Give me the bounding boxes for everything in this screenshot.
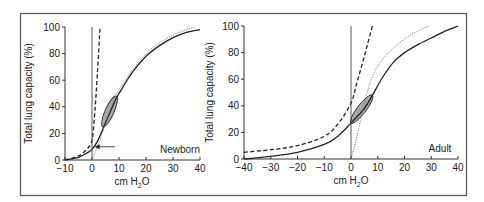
x-tick-label: −20 xyxy=(289,162,306,173)
x-tick-label: −30 xyxy=(262,162,279,173)
lung-curve xyxy=(92,27,195,160)
y-tick-label: 20 xyxy=(49,128,61,139)
adult-panel: 020406080100−40−30−20−10010203040Total l… xyxy=(204,21,464,189)
x-tick-label: 40 xyxy=(452,162,464,173)
y-tick-label: 60 xyxy=(228,74,240,85)
x-tick-label: −40 xyxy=(236,162,253,173)
x-axis-label: cm H2O xyxy=(114,176,149,189)
x-tick-label: 40 xyxy=(194,163,206,174)
x-tick-label: −10 xyxy=(57,163,74,174)
x-tick-label: 10 xyxy=(372,162,384,173)
x-tick-label: 30 xyxy=(426,162,438,173)
x-tick-label: 20 xyxy=(399,162,411,173)
lung-curve xyxy=(351,26,429,159)
x-tick-label: 10 xyxy=(113,163,125,174)
y-tick-label: 100 xyxy=(222,21,239,32)
newborn-panel: 020406080100−10010203040Total lung capac… xyxy=(23,22,206,190)
y-tick-label: 80 xyxy=(49,48,61,59)
y-tick-label: 60 xyxy=(49,75,61,86)
x-tick-label: 20 xyxy=(140,163,152,174)
tidal-volume-loop xyxy=(99,94,121,128)
y-tick-label: 40 xyxy=(228,100,240,111)
x-tick-label: −10 xyxy=(316,162,333,173)
respiratory-system-curve xyxy=(65,30,200,160)
y-tick-label: 100 xyxy=(43,22,60,33)
y-axis-label: Total lung capacity (%) xyxy=(23,43,34,144)
panel-label: Adult xyxy=(429,143,452,154)
y-tick-label: 20 xyxy=(228,127,240,138)
lung-pressure-volume-chart: 020406080100−10010203040Total lung capac… xyxy=(0,0,484,202)
x-axis-label: cm H2O xyxy=(333,175,368,188)
y-tick-label: 80 xyxy=(228,47,240,58)
y-tick-label: 40 xyxy=(49,101,61,112)
y-axis-label: Total lung capacity (%) xyxy=(204,42,215,143)
chest-wall-curve xyxy=(244,26,372,152)
x-tick-label: 0 xyxy=(348,162,354,173)
panel-label: Newborn xyxy=(160,144,200,155)
chest-wall-curve xyxy=(65,27,100,160)
x-tick-label: 0 xyxy=(89,163,95,174)
x-tick-label: 30 xyxy=(167,163,179,174)
